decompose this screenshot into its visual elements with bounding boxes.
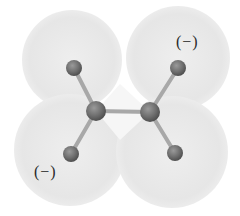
molecule-svg bbox=[0, 0, 240, 216]
charge-label-top-right: (−) bbox=[176, 34, 199, 50]
atom-center-right bbox=[140, 102, 160, 122]
lobe-top-right bbox=[126, 6, 230, 110]
molecule-diagram: (−) (−) bbox=[0, 0, 240, 216]
atom-center-left bbox=[86, 101, 106, 121]
atom-terminal-bottom-right bbox=[167, 145, 183, 161]
atom-terminal-top-left bbox=[66, 60, 82, 76]
charge-label-bottom-left: (−) bbox=[34, 164, 57, 180]
atom-terminal-bottom-left bbox=[63, 146, 79, 162]
atom-terminal-top-right bbox=[170, 60, 186, 76]
